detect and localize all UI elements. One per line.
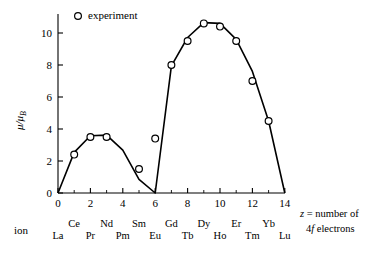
ion-label-sm: Sm [124, 219, 154, 230]
x-axis-tick-label: 4 [109, 198, 137, 209]
x-axis-tick-label: 6 [141, 198, 169, 209]
ion-label-lu: Lu [270, 231, 300, 242]
theory-curve-path [58, 23, 285, 193]
ion-label-nd: Nd [92, 219, 122, 230]
experiment-data-point [87, 134, 94, 141]
experiment-data-point [233, 38, 240, 45]
experiment-data-point [184, 38, 191, 45]
ion-label-er: Er [221, 219, 251, 230]
x-axis-tick-label: 10 [206, 198, 234, 209]
x-axis-tick-label: 0 [44, 198, 72, 209]
ion-label-ce: Ce [59, 219, 89, 230]
ion-label-tb: Tb [173, 231, 203, 242]
experiment-data-point [152, 135, 159, 142]
y-axis-tick-label: 8 [26, 60, 52, 71]
experiment-data-point [217, 23, 224, 30]
y-axis-tick-label: 2 [26, 156, 52, 167]
ion-label-ho: Ho [205, 231, 235, 242]
experiment-data-point [249, 78, 256, 85]
x-axis-ticks [58, 188, 285, 193]
legend-label-experiment: experiment [88, 10, 137, 21]
experiment-data-point [168, 62, 175, 69]
y-axis-tick-label: 10 [26, 28, 52, 39]
x-axis-note-line2: 4f electrons [306, 224, 355, 235]
ion-label-dy: Dy [189, 219, 219, 230]
y-axis-ticks [58, 33, 63, 193]
experiment-data-point [200, 20, 207, 27]
x-axis-tick-label: 8 [174, 198, 202, 209]
chart-figure: experiment μ/μB 0246810 02468101214 ion … [0, 0, 379, 253]
experiment-marker-group [71, 20, 272, 172]
axes [58, 14, 285, 193]
ion-label-yb: Yb [254, 219, 284, 230]
ion-label-pr: Pr [75, 231, 105, 242]
experiment-data-point [71, 151, 78, 158]
x-axis-tick-label: 2 [76, 198, 104, 209]
experiment-data-point [103, 134, 110, 141]
ion-label-pm: Pm [108, 231, 138, 242]
legend-open-circle-icon [75, 13, 82, 20]
ion-label-tm: Tm [237, 231, 267, 242]
ion-label-eu: Eu [140, 231, 170, 242]
x-axis-tick-label: 12 [238, 198, 266, 209]
experiment-data-point [136, 166, 143, 173]
x-axis-tick-label: 14 [271, 198, 299, 209]
ion-axis-title: ion [14, 225, 28, 236]
y-axis-tick-label: 4 [26, 124, 52, 135]
experiment-data-point [265, 118, 272, 125]
x-axis-note-line1: z = number of [300, 209, 359, 220]
ion-label-la: La [43, 231, 73, 242]
y-axis-tick-label: 6 [26, 92, 52, 103]
ion-label-gd: Gd [156, 219, 186, 230]
